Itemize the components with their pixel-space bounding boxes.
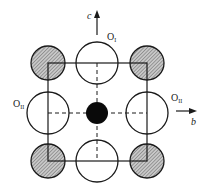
c-axis-label: c [87,10,92,21]
c-axis-arrow [94,10,100,35]
oxygen-label-o2-left: OII [13,98,24,110]
oxygen-label-o2-right: OII [171,92,182,104]
arrowhead-up-icon [94,10,100,18]
crystal-structure-diagram: c b OI OII OII [0,0,209,196]
oxygen-label-o1: OI [107,31,116,43]
b-axis-arrow [176,108,197,114]
arrowhead-right-icon [189,108,197,114]
central-atom [86,102,108,124]
b-axis-label: b [191,116,196,127]
